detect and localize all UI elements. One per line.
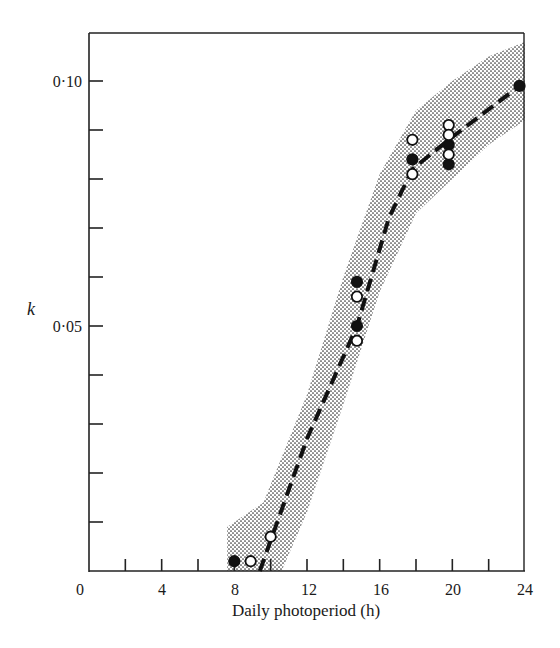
filled-data-point (514, 81, 524, 91)
x-tick-label-16: 16 (373, 581, 389, 598)
open-data-point (444, 130, 454, 140)
filled-data-point (229, 556, 239, 566)
confidence-band (227, 42, 525, 571)
filled-data-point (444, 159, 454, 169)
open-data-point (352, 336, 362, 346)
filled-data-point (352, 321, 362, 331)
x-tick-label-24: 24 (517, 581, 533, 598)
x-tick-label-4: 4 (158, 581, 166, 598)
open-data-point (265, 532, 275, 542)
open-data-point (407, 135, 417, 145)
x-tick-label-0: 0 (76, 581, 84, 598)
filled-data-point (444, 140, 454, 150)
filled-data-point (352, 277, 362, 287)
x-tick-label-12: 12 (301, 581, 317, 598)
filled-data-point (407, 154, 417, 164)
y-tick-label-0.10: 0·10 (53, 73, 82, 90)
x-tick-label-8: 8 (231, 581, 239, 598)
open-data-point (352, 291, 362, 301)
x-tick-labels: 0 4 8 12 16 20 24 (76, 581, 533, 598)
open-data-point (444, 120, 454, 130)
open-data-point (245, 556, 255, 566)
y-tick-labels: 0·10 0·05 (53, 73, 82, 335)
open-data-point (444, 149, 454, 159)
x-tick-label-20: 20 (445, 581, 461, 598)
open-data-point (407, 169, 417, 179)
y-axis-title: k (27, 299, 36, 319)
x-axis-title: Daily photoperiod (h) (232, 601, 380, 620)
y-tick-label-0.05: 0·05 (53, 318, 82, 335)
chart: 0·10 0·05 0 4 8 12 16 20 24 Daily photop… (0, 0, 560, 648)
